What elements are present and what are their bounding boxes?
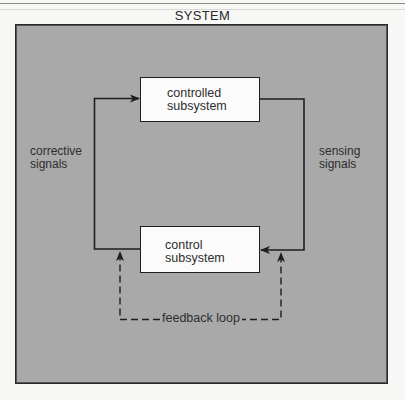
controlled-subsystem-box: controlled subsystem xyxy=(140,77,260,122)
control-line2: subsystem xyxy=(165,252,225,265)
controlled-line2: subsystem xyxy=(167,100,227,113)
control-subsystem-box: control subsystem xyxy=(140,226,260,273)
control-subsystem-label: control subsystem xyxy=(165,239,225,265)
sensing-signals-label: sensing signals xyxy=(319,145,360,171)
feedback-loop-label: feedback loop xyxy=(160,311,242,325)
corrective-line2: signals xyxy=(30,158,82,171)
sensing-signals-arrow xyxy=(259,99,304,250)
controlled-subsystem-label: controlled subsystem xyxy=(167,87,227,113)
corrective-signals-label: corrective signals xyxy=(30,145,82,171)
corrective-signals-arrow xyxy=(95,99,141,250)
connector-lines xyxy=(0,0,405,400)
sensing-line2: signals xyxy=(319,158,360,171)
